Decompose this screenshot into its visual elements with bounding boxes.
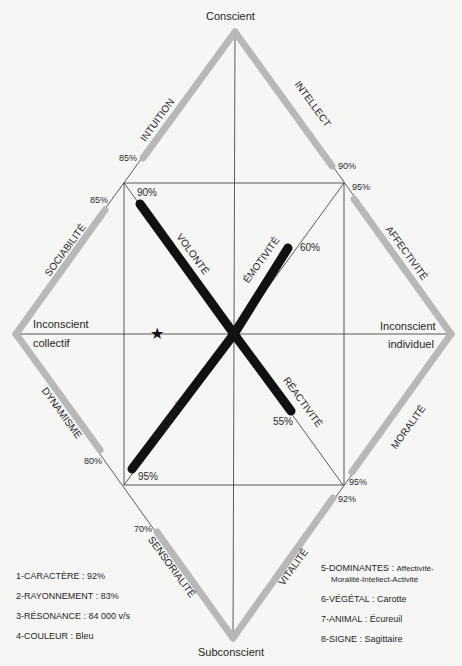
pct-sociabilite: 85% xyxy=(90,195,108,205)
legend-item-vegetal: 6-VÉGÉTAL : Carotte xyxy=(321,595,434,604)
axis-label-conscient: Conscient xyxy=(206,10,255,22)
bar-dynamisme xyxy=(16,334,100,450)
bar-intuition xyxy=(143,32,235,158)
axis-label-inconscient-individuel-2: individuel xyxy=(388,338,434,350)
pct-volonte: 90% xyxy=(137,187,157,198)
bar-moralite xyxy=(352,334,451,472)
legend-item-dominantes: 5-DOMINANTES : Affectivité- xyxy=(321,564,434,573)
legend-item-dominantes-cont: Moralité-Intellect-Activité xyxy=(321,576,434,584)
bar-sensorialite xyxy=(157,532,233,638)
pct-affectivite: 95% xyxy=(352,182,370,192)
axis-label-inconscient-collectif-2: collectif xyxy=(33,337,70,349)
label-activite: ACTIVITÉ xyxy=(150,399,186,443)
bar-volonte xyxy=(140,204,234,334)
pct-intellect: 90% xyxy=(338,161,356,171)
legend-right: 5-DOMINANTES : Affectivité- Moralité-Int… xyxy=(321,564,434,655)
legend-item-signe: 8-SIGNE : Sagittaire xyxy=(321,635,434,644)
legend-left: 1-CARACTÈRE : 92% 2-RAYONNEMENT : 83% 3-… xyxy=(16,572,130,652)
bar-affectivite xyxy=(354,199,451,334)
pct-dynamisme: 80% xyxy=(84,456,102,466)
star-icon: ★ xyxy=(150,325,164,342)
pct-emotivite: 60% xyxy=(300,242,320,253)
label-sensorialite: SENSORIALITÉ xyxy=(146,534,199,600)
pct-sensorialite: 70% xyxy=(134,524,152,534)
bar-activite xyxy=(132,334,234,469)
pct-reactivite: 55% xyxy=(273,416,293,427)
bar-sociabilite xyxy=(16,210,105,334)
pct-intuition: 85% xyxy=(119,153,137,163)
axis-label-subconscient: Subconscient xyxy=(198,646,264,658)
axis-label-inconscient-individuel-1: Inconscient xyxy=(380,320,436,332)
pct-activite: 95% xyxy=(138,471,158,482)
legend-item-animal: 7-ANIMAL : Écureuil xyxy=(321,615,434,624)
axis-label-inconscient-collectif-1: Inconscient xyxy=(33,318,89,330)
bar-intellect xyxy=(235,32,332,166)
pct-vitalite: 92% xyxy=(338,494,356,504)
legend-item-resonance: 3-RÉSONANCE : 84 000 v/s xyxy=(16,612,130,621)
bar-reactivite xyxy=(234,334,291,411)
bar-vitalite xyxy=(233,498,333,638)
pct-moralite: 95% xyxy=(349,477,367,487)
legend-item-caractere: 1-CARACTÈRE : 92% xyxy=(16,572,130,581)
legend-item-rayonnement: 2-RAYONNEMENT : 83% xyxy=(16,592,130,601)
legend-item-couleur: 4-COULEUR : Bleu xyxy=(16,632,130,641)
